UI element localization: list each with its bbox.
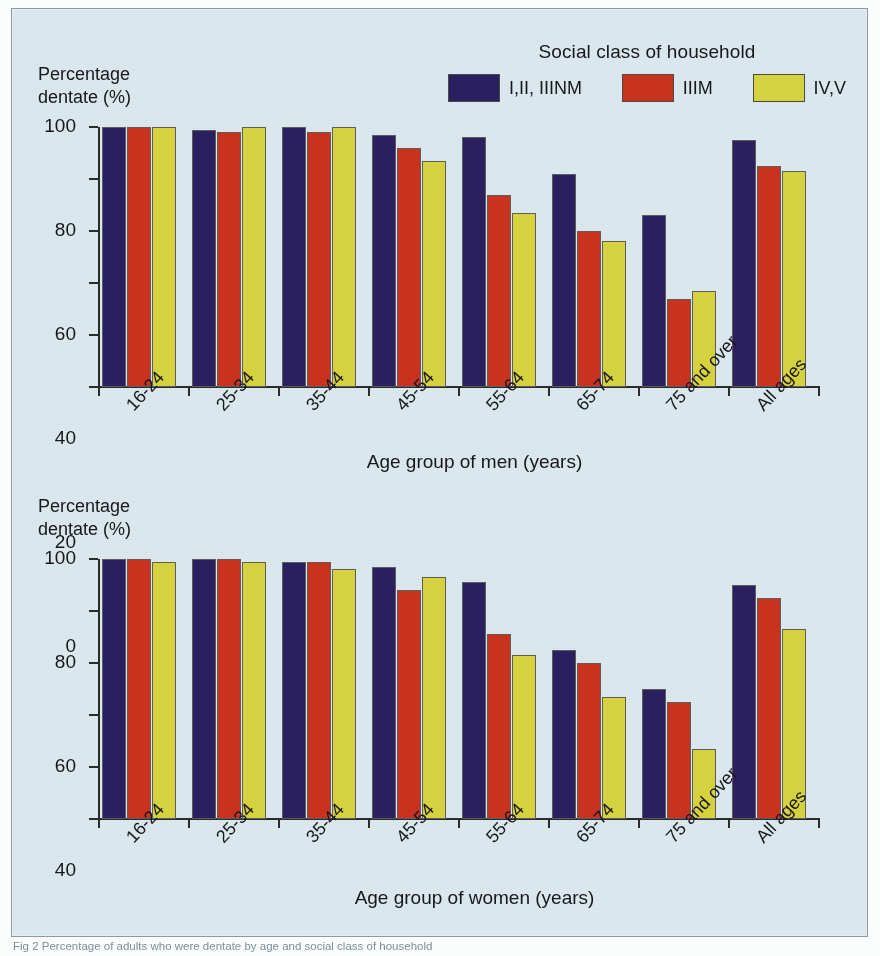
bar: [422, 577, 446, 819]
bar-group: [188, 559, 278, 819]
y-tick-label: 100: [44, 115, 76, 137]
bar: [282, 562, 306, 819]
bar: [487, 195, 511, 387]
bar-group: [98, 559, 188, 819]
bar-group: [548, 127, 638, 387]
bar: [462, 137, 486, 387]
bar: [397, 590, 421, 819]
figure-page: Social class of household I,II, IIINMIII…: [0, 0, 880, 956]
y-axis-label-women: Percentage dentate (%): [38, 495, 131, 541]
y-tick-women-2: 40: [89, 714, 98, 716]
bar-group: [278, 559, 368, 819]
chart-men: Percentage dentate (%) 020406080100 16-2…: [12, 57, 867, 497]
y-axis-label-men: Percentage dentate (%): [38, 63, 131, 109]
y-tick-women-5: 100: [89, 558, 98, 560]
bar: [642, 215, 666, 387]
y-tick-label: 60: [55, 755, 76, 777]
y-tick-women-0: 0: [89, 818, 98, 820]
x-axis-title-women: Age group of women (years): [12, 887, 867, 909]
bar: [757, 598, 781, 819]
y-tick-women-1: 20: [89, 766, 98, 768]
y-tick-women-3: 60: [89, 662, 98, 664]
bar: [397, 148, 421, 387]
bar-group: [188, 127, 278, 387]
bar-group: [368, 127, 458, 387]
y-tick-label: 40: [55, 859, 76, 881]
y-tick-men-1: 20: [89, 334, 98, 336]
bar: [577, 231, 601, 387]
bar: [757, 166, 781, 387]
bar: [242, 127, 266, 387]
bar-group: [458, 559, 548, 819]
y-tick-label: 100: [44, 547, 76, 569]
x-tick-women-8: [818, 819, 820, 828]
bar-group: [98, 127, 188, 387]
y-tick-label: 60: [55, 323, 76, 345]
bar: [552, 174, 576, 387]
bar: [332, 127, 356, 387]
y-tick-label: 80: [55, 219, 76, 241]
figure-caption: Fig 2 Percentage of adults who were dent…: [13, 940, 873, 954]
bar: [242, 562, 266, 819]
bar: [102, 559, 126, 819]
bar: [152, 127, 176, 387]
bar: [552, 650, 576, 819]
bar: [192, 130, 216, 387]
y-tick-men-4: 80: [89, 178, 98, 180]
y-tick-label: 40: [55, 427, 76, 449]
bar: [512, 213, 536, 387]
bar: [307, 562, 331, 819]
bar: [282, 127, 306, 387]
bar: [372, 135, 396, 387]
bar: [217, 559, 241, 819]
bar: [667, 702, 691, 819]
bar-group: [728, 559, 818, 819]
y-tick-men-0: 0: [89, 386, 98, 388]
bar: [127, 127, 151, 387]
bar: [152, 562, 176, 819]
y-tick-men-3: 60: [89, 230, 98, 232]
bar: [307, 132, 331, 387]
y-tick-label: 80: [55, 651, 76, 673]
bar: [192, 559, 216, 819]
bar: [332, 569, 356, 819]
bar-group: [548, 559, 638, 819]
bar-group: [278, 127, 368, 387]
bar: [602, 241, 626, 387]
y-tick-women-4: 80: [89, 610, 98, 612]
bar: [512, 655, 536, 819]
x-tick-men-8: [818, 387, 820, 396]
bar: [372, 567, 396, 819]
y-tick-men-2: 40: [89, 282, 98, 284]
bar-group: [728, 127, 818, 387]
bar: [462, 582, 486, 819]
bar: [217, 132, 241, 387]
bar-group: [368, 559, 458, 819]
bar: [102, 127, 126, 387]
bar: [642, 689, 666, 819]
bar: [422, 161, 446, 387]
bar: [127, 559, 151, 819]
x-axis-title-men: Age group of men (years): [12, 451, 867, 473]
chart-women: Percentage dentate (%) 020406080100 16-2…: [12, 489, 867, 929]
bar: [487, 634, 511, 819]
y-tick-men-5: 100: [89, 126, 98, 128]
figure-frame: Social class of household I,II, IIINMIII…: [11, 8, 868, 937]
bar: [577, 663, 601, 819]
bar-group: [458, 127, 548, 387]
